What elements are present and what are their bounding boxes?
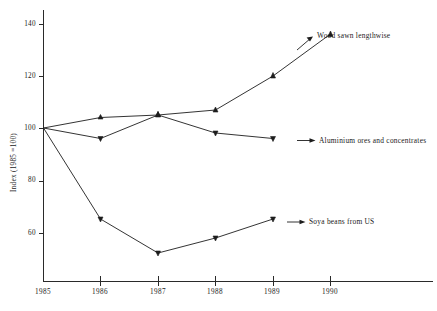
series-label-wood-sawn-lengthwise: Wood sawn lengthwise xyxy=(317,31,390,40)
annotation-leader-aluminium-ores xyxy=(297,138,316,143)
annotation-leader-wood-sawn-lengthwise xyxy=(297,36,313,50)
plot-area xyxy=(0,0,437,311)
series-label-aluminium-ores: Aluminium ores and concentrates xyxy=(319,136,426,145)
series-label-soya-beans: Soya beans from US xyxy=(309,217,374,226)
series-markers-aluminium-ores xyxy=(98,112,276,142)
annotation-leader-soya-beans xyxy=(287,220,306,225)
series-markers-soya-beans xyxy=(98,217,276,256)
chart-container: Index (1985 =100) 140 120 100 80 60 1985… xyxy=(0,0,437,311)
series-line-soya-beans xyxy=(44,128,274,253)
series-line-wood-sawn-lengthwise xyxy=(44,34,331,128)
series-line-aluminium-ores xyxy=(44,115,274,139)
series-markers-wood-sawn-lengthwise xyxy=(98,31,333,119)
